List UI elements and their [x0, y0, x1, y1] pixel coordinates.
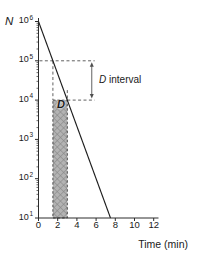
survivor-curve-figure: N 106105104103102101 024681012 Time (min…	[0, 0, 198, 267]
y-tick-label: 104	[3, 95, 33, 105]
x-tick-label: 4	[67, 220, 87, 230]
d-interval-label: D interval	[99, 74, 141, 85]
y-tick-label: 103	[3, 134, 33, 144]
y-tick-label: 106	[3, 16, 33, 26]
x-axis-title: Time (min)	[108, 239, 188, 251]
d-region-label: D	[53, 98, 69, 110]
x-tick-label: 10	[125, 220, 145, 230]
x-tick-label: 12	[144, 220, 164, 230]
d-rect	[53, 100, 67, 218]
d-interval-arrow	[90, 62, 94, 98]
x-tick-label: 0	[29, 220, 49, 230]
y-tick-label: 102	[3, 173, 33, 183]
y-tick-label: 105	[3, 55, 33, 65]
x-tick-label: 8	[105, 220, 125, 230]
x-tick-label: 2	[48, 220, 68, 230]
d-interval-label-rest: interval	[106, 74, 141, 85]
dashed-guides	[39, 61, 94, 100]
x-tick-label: 6	[86, 220, 106, 230]
survivor-line	[39, 22, 111, 219]
